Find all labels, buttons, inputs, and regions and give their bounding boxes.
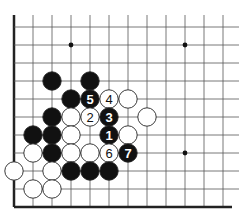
move-number-label: 6 [105, 146, 112, 161]
white-stone [62, 108, 80, 126]
black-stone [43, 126, 61, 144]
move-number-label: 2 [86, 110, 93, 125]
white-stone [119, 126, 137, 144]
black-stone [43, 144, 61, 162]
black-stone [24, 126, 42, 144]
white-stone [62, 126, 80, 144]
black-stone [43, 72, 61, 90]
black-stone-move-3: 3 [100, 108, 118, 126]
white-stone [119, 90, 137, 108]
black-stone [81, 162, 99, 180]
white-stone-move-4: 4 [100, 90, 118, 108]
white-stone [43, 162, 61, 180]
white-stone [24, 180, 42, 198]
white-stone [62, 144, 80, 162]
black-stone-move-5: 5 [81, 90, 99, 108]
white-stone [24, 144, 42, 162]
white-stone [5, 162, 23, 180]
star-point-icon [69, 43, 74, 48]
black-stone [81, 72, 99, 90]
white-stone [43, 180, 61, 198]
black-stone [62, 90, 80, 108]
black-stone [62, 162, 80, 180]
stones: 5423167 [5, 72, 156, 198]
white-stone [81, 144, 99, 162]
black-stone [43, 108, 61, 126]
white-stone-move-2: 2 [81, 108, 99, 126]
white-stone-move-6: 6 [100, 144, 118, 162]
white-stone [138, 108, 156, 126]
move-number-label: 3 [105, 110, 112, 125]
go-board-diagram: 5423167 [0, 0, 239, 214]
black-stone [100, 162, 118, 180]
star-point-icon [183, 151, 188, 156]
star-point-icon [183, 43, 188, 48]
move-number-label: 4 [105, 92, 112, 107]
black-stone-move-1: 1 [100, 126, 118, 144]
black-stone-move-7: 7 [119, 144, 137, 162]
move-number-label: 1 [105, 128, 112, 143]
move-number-label: 5 [86, 92, 93, 107]
move-number-label: 7 [124, 146, 131, 161]
